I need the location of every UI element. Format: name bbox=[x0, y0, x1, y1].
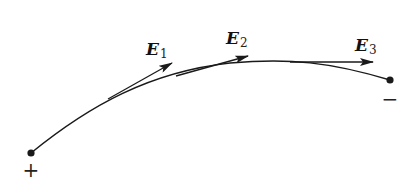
vector-E2-label: E 2 bbox=[225, 28, 248, 50]
vector-E3-symbol: E bbox=[354, 35, 369, 55]
vector-E3-subscript: 3 bbox=[369, 43, 377, 57]
field-line-diagram: + − E 1 E 2 E 3 bbox=[0, 0, 416, 195]
vector-E1-arrow bbox=[108, 63, 172, 99]
vector-E2-subscript: 2 bbox=[240, 36, 248, 50]
field-line-curve bbox=[31, 61, 390, 153]
negative-sign-label: − bbox=[382, 87, 399, 111]
vector-E1-symbol: E bbox=[145, 39, 160, 59]
vector-E2-arrow bbox=[176, 56, 248, 76]
vector-E1-label: E 1 bbox=[145, 39, 168, 61]
negative-charge-dot bbox=[386, 76, 393, 83]
vector-E3-label: E 3 bbox=[354, 35, 377, 57]
vector-E2-symbol: E bbox=[225, 28, 240, 48]
positive-sign-label: + bbox=[23, 158, 40, 182]
vector-E1-subscript: 1 bbox=[160, 47, 168, 61]
positive-charge-dot bbox=[27, 149, 34, 156]
